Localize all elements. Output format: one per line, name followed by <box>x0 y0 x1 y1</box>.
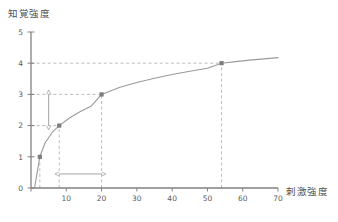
data-points-group <box>38 61 224 159</box>
y-tick-label-4: 4 <box>18 59 23 68</box>
chart-container: 知覚強度 刺激強度 10203040506070012345 <box>0 0 338 222</box>
data-point-P1 <box>38 155 42 159</box>
data-point-P2 <box>57 124 61 128</box>
x-tick-label-20: 20 <box>97 194 107 203</box>
plot-area: 10203040506070012345 <box>0 0 338 222</box>
y-tick-label-3: 3 <box>18 90 23 99</box>
x-tick-label-70: 70 <box>273 194 283 203</box>
perception-curve <box>35 58 278 188</box>
x-tick-label-60: 60 <box>238 194 248 203</box>
x-tick-label-40: 40 <box>167 194 177 203</box>
y-tick-label-5: 5 <box>18 28 23 37</box>
x-tick-label-50: 50 <box>203 194 213 203</box>
data-curve-group <box>35 58 278 188</box>
axes-group <box>28 32 279 192</box>
y-tick-label-1: 1 <box>18 153 23 162</box>
y-tick-label-0: 0 <box>18 184 23 193</box>
x-tick-label-30: 30 <box>132 194 142 203</box>
y-tick-label-2: 2 <box>18 121 23 130</box>
annotation-arrows-group <box>49 94 102 174</box>
data-point-P4 <box>219 61 223 65</box>
data-point-P3 <box>99 92 103 96</box>
x-tick-label-10: 10 <box>62 194 72 203</box>
tick-labels-group: 10203040506070012345 <box>18 28 283 203</box>
